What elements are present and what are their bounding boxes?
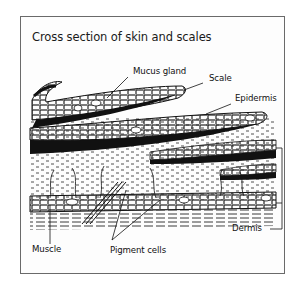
label-mucus-gland: Mucus gland (133, 66, 186, 76)
label-dermis: Dermis (232, 223, 262, 233)
label-scale: Scale (209, 73, 232, 83)
label-muscle: Muscle (32, 244, 61, 254)
label-epidermis: Epidermis (235, 93, 277, 103)
scale-leader (184, 83, 203, 90)
label-pigment-cells: Pigment cells (110, 245, 166, 255)
mucus-gland-cell (74, 105, 82, 111)
epidermis-leader (206, 104, 231, 114)
skin-cross-section-illustration (0, 0, 304, 282)
